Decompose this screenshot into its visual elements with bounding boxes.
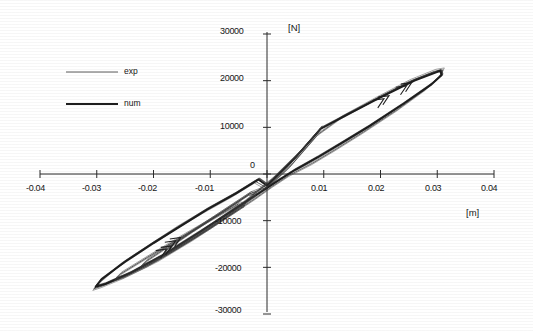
x-tick-label-0.04: 0.04	[481, 183, 497, 193]
y-tick-label--30000: -30000	[215, 305, 241, 315]
series-num	[96, 71, 442, 287]
x-tick-label-0.03: 0.03	[425, 183, 441, 193]
series-num	[96, 70, 442, 286]
legend-label-num: num	[124, 98, 141, 108]
legend-swatch-group	[66, 72, 118, 104]
series-path-inner-loop-1	[163, 129, 320, 255]
x-tick-label--0.03: -0.03	[82, 183, 101, 193]
series-path-exp	[95, 68, 444, 287]
x-tick-label-0.01: 0.01	[311, 183, 327, 193]
x-tick-label-0.02: 0.02	[368, 183, 384, 193]
series-path-exp	[94, 70, 443, 289]
y-tick-label-20000: 20000	[220, 73, 244, 83]
y-tick-label--20000: -20000	[215, 263, 241, 273]
series-inner-loop-2	[141, 194, 256, 267]
series-path-num	[96, 71, 442, 287]
y-tick-label--10000: -10000	[215, 216, 241, 226]
series-exp	[95, 68, 444, 287]
series-path-inner-loop-2	[142, 192, 257, 265]
y-tick-label-30000: 30000	[220, 26, 244, 36]
x-tick-label--0.04: -0.04	[26, 183, 45, 193]
data-series-group	[93, 68, 445, 290]
x-axis-unit-label: [m]	[466, 207, 479, 218]
arrow-chevron	[373, 99, 384, 108]
x-tick-label--0.02: -0.02	[138, 183, 157, 193]
series-inner-loop-1	[163, 129, 320, 255]
legend-label-exp: exp	[124, 66, 138, 76]
series-path-num	[96, 70, 442, 286]
hysteresis-chart	[0, 0, 533, 331]
y-tick-label-10000: 10000	[220, 121, 244, 131]
series-inner-loop-2	[142, 192, 257, 265]
series-path-inner-loop-2	[141, 194, 256, 267]
y-axis-unit-label: [N]	[288, 22, 300, 33]
series-exp	[94, 70, 443, 289]
x-tick-label--0.01: -0.01	[195, 183, 214, 193]
y-tick-label-0: 0	[250, 160, 255, 170]
